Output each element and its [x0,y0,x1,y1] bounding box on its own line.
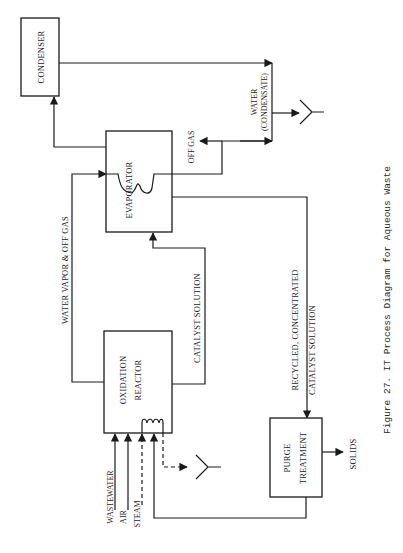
purge-treatment-unit: PURGE TREATMENT [270,418,322,497]
recycled-label: RECYCLED, CONCENTRATED [290,269,300,390]
condenser-label: CONDENSER [36,30,46,83]
catalyst-solution-recycled-label: CATALYST SOLUTION [307,305,317,395]
water-vapor-line [72,174,106,382]
discharge-symbol-water [300,100,324,124]
water-label: WATER [250,88,259,115]
condensate-label: (CONDENSATE) [260,73,269,131]
reactor-label: REACTOR [133,359,143,400]
evaporator-to-condenser-line [54,97,106,147]
air-label: AIR [119,509,128,523]
oxidation-reactor-unit: OXIDATION REACTOR [104,331,172,433]
evaporator-unit: EVAPORATOR [106,131,172,232]
catalyst-solution-label: CATALYST SOLUTION [192,273,202,363]
off-gas-label: OFF GAS [187,131,196,164]
treatment-label: TREATMENT [298,431,308,484]
oxidation-label: OXIDATION [118,356,128,405]
water-vapor-off-gas-label: WATER VAPOR & OFF GAS [60,216,70,324]
solids-label: SOLIDS [348,438,358,469]
steam-label: STEAM [133,500,142,527]
process-flow-diagram: CONDENSER WATER (CONDENSATE) OFF GAS EVA… [0,0,403,553]
figure-caption: Figure 27. IT Process Diagram for Aqueou… [382,166,393,434]
condenser-unit: CONDENSER [21,18,59,96]
wastewater-label: WASTEWATER [106,470,115,524]
purge-label: PURGE [282,444,292,473]
steam-condensate-line [163,433,187,467]
discharge-symbol-steam [196,455,221,479]
evaporator-label: EVAPORATOR [124,161,134,218]
